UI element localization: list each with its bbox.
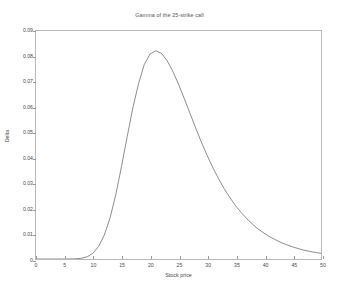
y-tick-label: 0.01 bbox=[23, 231, 33, 238]
y-tick-label: 0.03 bbox=[23, 180, 33, 187]
x-tick-label: 35 bbox=[227, 262, 247, 268]
y-tick-mark bbox=[33, 57, 36, 58]
x-tick-label: 10 bbox=[83, 262, 103, 268]
x-tick-mark bbox=[237, 256, 238, 259]
curve-plot bbox=[36, 31, 321, 259]
y-tick-mark bbox=[33, 133, 36, 134]
y-tick-mark bbox=[33, 31, 36, 32]
x-tick-label: 15 bbox=[112, 262, 132, 268]
x-tick-label: 5 bbox=[55, 262, 75, 268]
y-tick-mark bbox=[33, 159, 36, 160]
chart-title: Gamma of the 25-strike call bbox=[0, 12, 339, 18]
x-tick-mark bbox=[208, 256, 209, 259]
x-tick-label: 30 bbox=[198, 262, 218, 268]
y-tick-mark bbox=[33, 184, 36, 185]
x-tick-mark bbox=[122, 256, 123, 259]
x-tick-label: 20 bbox=[141, 262, 161, 268]
x-tick-label: 50 bbox=[313, 262, 333, 268]
x-tick-label: 25 bbox=[170, 262, 190, 268]
x-tick-mark bbox=[294, 256, 295, 259]
y-tick-mark bbox=[33, 108, 36, 109]
y-tick-label: 0.06 bbox=[23, 104, 33, 111]
x-tick-mark bbox=[323, 256, 324, 259]
y-tick-label: 0.07 bbox=[23, 78, 33, 85]
y-tick-mark bbox=[33, 235, 36, 236]
x-tick-label: 0 bbox=[26, 262, 46, 268]
data-series-line bbox=[36, 51, 321, 259]
y-tick-label: 0.05 bbox=[23, 129, 33, 136]
x-tick-mark bbox=[180, 256, 181, 259]
y-tick-label: 0.08 bbox=[23, 53, 33, 60]
y-tick-mark bbox=[33, 82, 36, 83]
x-tick-label: 40 bbox=[256, 262, 276, 268]
y-tick-label: 0.02 bbox=[23, 206, 33, 213]
x-tick-mark bbox=[151, 256, 152, 259]
chart-figure: Gamma of the 25-strike call 00.010.020.0… bbox=[0, 0, 339, 290]
y-axis-label: Delta bbox=[4, 116, 10, 156]
x-tick-mark bbox=[36, 256, 37, 259]
plot-area: 00.010.020.030.040.050.060.070.080.09 05… bbox=[35, 30, 322, 260]
x-axis-label: Stock price bbox=[35, 272, 322, 278]
x-tick-mark bbox=[93, 256, 94, 259]
y-tick-mark bbox=[33, 210, 36, 211]
x-tick-mark bbox=[266, 256, 267, 259]
x-tick-mark bbox=[65, 256, 66, 259]
y-tick-label: 0.09 bbox=[23, 27, 33, 34]
x-tick-label: 45 bbox=[284, 262, 304, 268]
y-tick-label: 0.04 bbox=[23, 155, 33, 162]
